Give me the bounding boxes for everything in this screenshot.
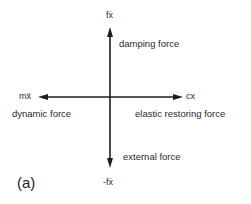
up-symbol: fẋ xyxy=(106,10,113,21)
dynamic-force-label: dynamic force xyxy=(12,108,71,119)
left-symbol: mẍ xyxy=(19,91,31,102)
arrow-down-icon xyxy=(107,158,113,168)
external-force-label: external force xyxy=(123,151,181,162)
right-symbol: cx xyxy=(186,91,195,102)
damping-force-label: damping force xyxy=(119,38,179,49)
figure-caption: (a) xyxy=(17,175,35,191)
down-symbol: -fẋ xyxy=(103,177,113,188)
arrow-left-icon xyxy=(38,94,48,100)
axes xyxy=(0,0,251,204)
arrow-right-icon xyxy=(173,94,183,100)
force-vector-diagram: fẋ damping force mẍ cx dynamic force ela… xyxy=(0,0,251,204)
arrow-up-icon xyxy=(107,27,113,37)
elastic-restoring-force-label: elastic restoring force xyxy=(135,108,225,119)
